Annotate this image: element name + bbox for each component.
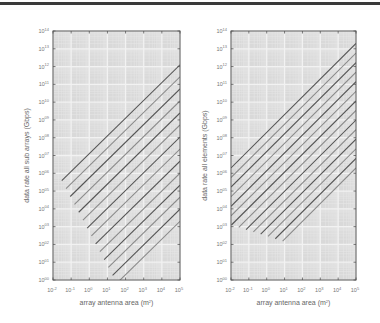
y-tick-label: 1006 [216, 169, 227, 177]
y-tick-label: 1004 [216, 204, 227, 212]
y-axis-label: data rate all elements (Gbps) [201, 110, 209, 200]
y-axis-label: data rate all sub arrays (Gbps) [23, 108, 31, 203]
x-tick-label: 10-1 [243, 286, 253, 294]
figure: 1000100110021003100410051006100710081009… [0, 0, 380, 323]
y-tick-label: 1003 [38, 222, 49, 230]
y-tick-label: 1009 [38, 115, 49, 123]
y-tick-label: 1005 [38, 187, 49, 195]
y-tick-label: 1012 [38, 62, 49, 70]
x-tick-label: 102 [120, 286, 129, 294]
x-tick-label: 104 [157, 286, 166, 294]
x-tick-label: 100 [262, 286, 271, 294]
x-tick-label: 101 [102, 286, 111, 294]
x-axis-label: array antenna area (m2) [257, 299, 331, 308]
y-tick-label: 1013 [38, 44, 49, 52]
y-tick-label: 1004 [38, 204, 49, 212]
y-tick-label: 1010 [216, 98, 227, 106]
y-tick-label: 1000 [38, 276, 49, 284]
y-tick-label: 1008 [216, 133, 227, 141]
x-tick-label: 10-1 [65, 286, 75, 294]
y-tick-label: 1003 [216, 222, 227, 230]
x-tick-label: 100 [84, 286, 93, 294]
y-tick-label: 1001 [216, 258, 227, 266]
x-tick-label: 103 [315, 286, 324, 294]
y-tick-label: 1011 [217, 80, 228, 88]
chart-panel-left: 1000100110021003100410051006100710081009… [23, 27, 184, 308]
y-tick-label: 1009 [216, 115, 227, 123]
y-tick-label: 1000 [216, 276, 227, 284]
y-tick-label: 1008 [38, 133, 49, 141]
y-tick-label: 1007 [38, 151, 49, 159]
y-tick-label: 1011 [39, 80, 50, 88]
x-tick-label: 101 [279, 286, 288, 294]
y-tick-label: 1007 [216, 151, 227, 159]
y-tick-label: 1010 [38, 98, 49, 106]
x-tick-label: 105 [351, 286, 360, 294]
y-tick-label: 1006 [38, 169, 49, 177]
y-tick-label: 1013 [216, 44, 227, 52]
y-tick-label: 1012 [216, 62, 227, 70]
x-tick-label: 10-2 [225, 286, 235, 294]
x-tick-label: 104 [333, 286, 342, 294]
y-tick-label: 1002 [38, 240, 49, 248]
chart-panel-right: 1000100110021003100410051006100710081009… [201, 27, 360, 308]
x-tick-label: 102 [297, 286, 306, 294]
y-tick-label: 1014 [216, 27, 227, 35]
y-tick-label: 1002 [216, 240, 227, 248]
x-tick-label: 103 [139, 286, 148, 294]
y-tick-label: 1001 [38, 258, 49, 266]
x-tick-label: 105 [175, 286, 184, 294]
x-axis-label: array antenna area (m2) [80, 299, 154, 308]
x-tick-label: 10-2 [47, 286, 57, 294]
y-tick-label: 1005 [216, 187, 227, 195]
y-tick-label: 1014 [38, 27, 49, 35]
